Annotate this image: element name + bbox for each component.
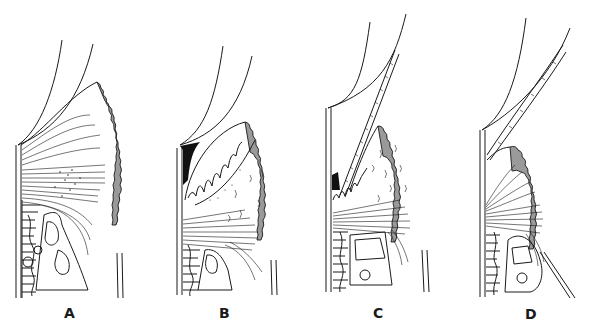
panel-label-d: D — [525, 306, 537, 322]
figure-canvas — [0, 0, 594, 333]
panel-label-b: B — [219, 305, 230, 321]
panel-label-c: C — [373, 305, 383, 321]
panel-a-drawing — [16, 40, 123, 298]
panel-c-drawing — [326, 14, 429, 292]
panel-d-drawing — [480, 18, 575, 298]
panel-label-a: A — [64, 305, 75, 321]
panel-b-drawing — [177, 46, 277, 296]
